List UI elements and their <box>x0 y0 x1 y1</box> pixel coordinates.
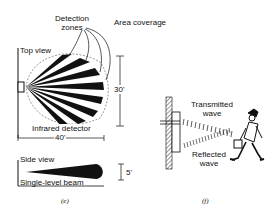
single-level-beam-label: Single-level beam <box>20 178 84 187</box>
transmitted-wave <box>183 119 232 137</box>
top-view-label: Top view <box>20 46 51 55</box>
area-coverage-title: Area coverage <box>114 18 166 27</box>
single-level-beam <box>26 164 103 179</box>
depth-dim-label: 30' <box>114 85 124 94</box>
detection-zones-line2: zones <box>44 23 100 32</box>
infrared-detector-label: Infrared detector <box>32 124 91 133</box>
width-dim-label: 40' <box>54 133 66 142</box>
transmitted-line2: wave <box>184 109 240 118</box>
detector-box <box>18 82 24 92</box>
detection-zones-label: Detection zones <box>44 14 100 32</box>
detection-zones-line1: Detection <box>44 14 100 23</box>
side-view-label: Side view <box>20 155 54 164</box>
reflected-line2: wave <box>184 159 234 168</box>
hatched-wall <box>166 97 172 169</box>
reflected-wave-label: Reflected wave <box>184 150 234 168</box>
transmitted-line1: Transmitted <box>184 100 240 109</box>
reflected-line1: Reflected <box>184 150 234 159</box>
caption-f: (f) <box>202 197 209 206</box>
transmitted-wave-label: Transmitted wave <box>184 100 240 118</box>
height-dimension <box>118 164 124 180</box>
height-dim-label: 5' <box>126 168 132 177</box>
caption-e: (e) <box>61 197 69 206</box>
sensor-housing <box>172 112 180 152</box>
